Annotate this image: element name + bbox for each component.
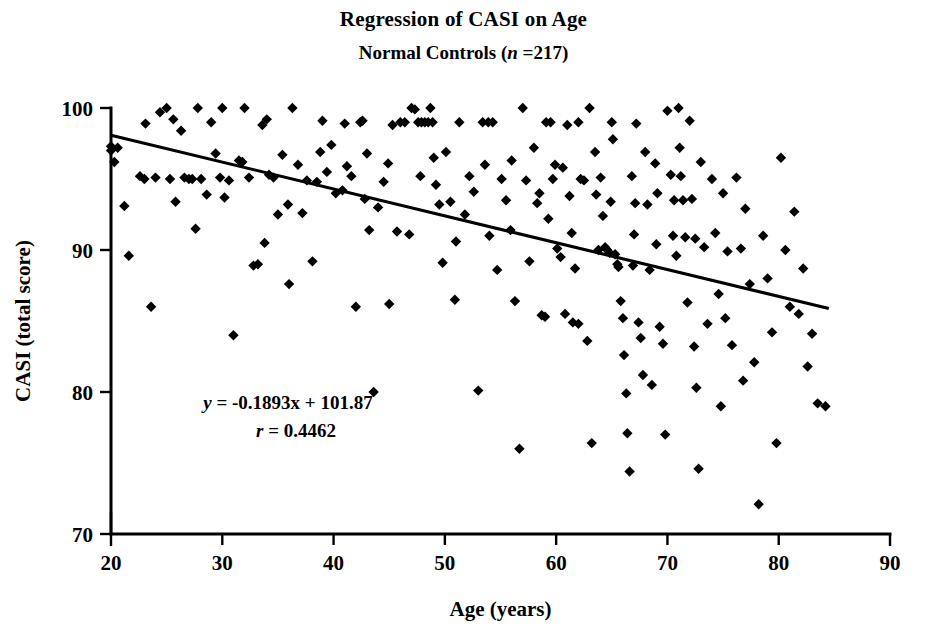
data-point [492,265,502,275]
axes-layer [100,108,890,546]
data-point [691,383,701,393]
data-point [710,228,720,238]
data-point [469,187,479,197]
data-point [190,224,200,234]
data-point [460,209,470,219]
data-point [629,229,639,239]
data-point [518,103,528,113]
data-point [762,273,772,283]
data-point [119,201,129,211]
regression-equation-annotation: y = -0.1893x + 101.87 [201,392,373,413]
data-point [284,279,294,289]
data-point [776,153,786,163]
data-point [484,231,494,241]
data-point [425,103,435,113]
regression-line [111,135,829,308]
y-tick-label-90: 90 [72,239,93,263]
data-point [598,211,608,221]
data-point [618,313,628,323]
axis-spines [111,108,890,534]
data-point [680,232,690,242]
data-point [150,172,160,182]
data-point [524,256,534,266]
data-point [650,158,660,168]
data-point [548,174,558,184]
x-tick-label-70: 70 [657,551,678,575]
data-point [707,174,717,184]
data-point [429,153,439,163]
data-point [480,160,490,170]
data-point [293,160,303,170]
correlation-body: = 0.4462 [263,420,336,441]
y-tick-label-100: 100 [62,97,94,121]
data-point [362,148,372,158]
data-point [651,239,661,249]
data-point [731,172,741,182]
data-points-layer [106,103,831,510]
data-point [671,250,681,260]
data-point [654,321,664,331]
y-tick-label-80: 80 [72,381,93,405]
chart-figure: Regression of CASI on Age Normal Control… [0,0,927,642]
data-point [608,134,618,144]
data-point [176,126,186,136]
data-point [798,263,808,273]
data-point [273,209,283,219]
equation-body: = -0.1893x + 101.87 [212,392,373,413]
data-point [506,155,516,165]
data-point [652,188,662,198]
data-point [404,229,414,239]
data-point [780,245,790,255]
data-point [434,199,444,209]
data-point [595,172,605,182]
data-point [297,208,307,218]
data-point [244,172,254,182]
data-point [758,231,768,241]
data-point [373,202,383,212]
data-point [564,191,574,201]
data-point [630,198,640,208]
data-point [636,333,646,343]
data-point [501,195,511,205]
data-point [631,118,641,128]
data-point [587,438,597,448]
correlation-annotation: r = 0.4462 [256,420,336,441]
data-point [622,428,632,438]
data-point [674,143,684,153]
data-point [384,299,394,309]
data-point [124,250,134,260]
data-point [454,117,464,127]
data-point [364,225,374,235]
data-point [560,309,570,319]
data-point [690,233,700,243]
data-point [534,188,544,198]
data-point [720,313,730,323]
data-point [415,171,425,181]
data-point [326,140,336,150]
data-point [693,463,703,473]
data-point [669,195,679,205]
data-point [640,147,650,157]
data-point [673,103,683,113]
data-point [283,199,293,209]
data-point [322,167,332,177]
data-point [684,116,694,126]
data-point [627,171,637,181]
data-point [738,375,748,385]
data-point [317,116,327,126]
data-point [215,172,225,182]
data-point [666,170,676,180]
x-tick-label-50: 50 [434,551,455,575]
data-point [749,357,759,367]
data-point [570,263,580,273]
data-point [450,295,460,305]
data-point [647,380,657,390]
data-point [441,147,451,157]
x-tick-label-40: 40 [323,551,344,575]
data-point [445,197,455,207]
data-point [219,192,229,202]
data-point [590,147,600,157]
data-point [431,179,441,189]
data-point [259,238,269,248]
data-point [807,329,817,339]
